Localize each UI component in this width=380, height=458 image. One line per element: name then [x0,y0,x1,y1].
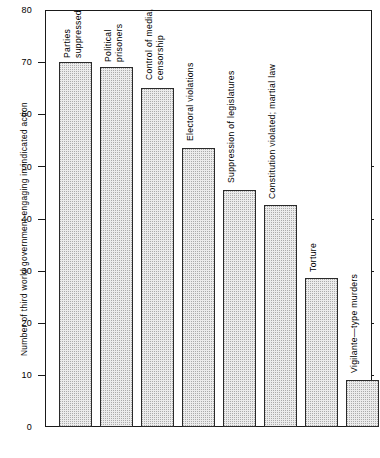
bar-parties-suppressed [59,62,92,427]
bar-label-line-1: Political [103,29,113,62]
bar-label-line-2: prisoners [114,24,125,63]
bar-label-suppression-of-legislatures: Suppression of legislatures [226,70,236,183]
y-tick-label-60: 60 [10,110,32,119]
y-tick-label-80: 80 [10,6,32,15]
y-tick-label-10: 10 [10,371,32,380]
y-tick-mark-20 [38,323,45,324]
y-tick-mark-30 [38,271,45,272]
y-tick-label-70: 70 [10,58,32,67]
y-tick-mark-70 [38,62,45,63]
bar-electoral-violations [182,148,215,427]
bar-label-torture: Torture [308,243,318,272]
bar-chart: Number of third world government engagin… [0,0,380,458]
bar-label-political-prisoners: Political prisoners [103,24,125,63]
y-tick-mark-10 [38,375,45,376]
bars-area [45,10,372,427]
bar-label-line-1: Control of media, [144,9,154,80]
y-tick-mark-50 [38,166,45,167]
bar-label-control-of-media-censorship: Control of media, censorship [144,9,166,80]
y-tick-label-40: 40 [10,215,32,224]
bar-label-line-1: Electoral violations [185,62,195,141]
bar-label-electoral-violations: Electoral violations [185,62,195,141]
bar-label-line-2: suppressed [73,10,84,58]
y-tick-label-50: 50 [10,163,32,172]
y-tick-label-30: 30 [10,267,32,276]
y-tick-mark-60 [38,114,45,115]
bar-torture [305,278,338,427]
bar-label-line-1: Suppression of legislatures [226,70,236,183]
bar-label-parties-suppressed: Parties suppressed [62,10,84,58]
bar-political-prisoners [100,67,133,427]
bar-label-line-2: censorship [155,9,166,80]
bar-vigilante-type-murders [346,380,379,427]
y-tick-mark-40 [38,219,45,220]
bar-control-of-media-censorship [141,88,174,427]
bar-label-line-1: Torture [308,243,318,272]
bar-label-line-1: Constitution violated; martial law [267,64,277,199]
bar-label-vigilante-type-murders: Vigilante—type murders [349,274,359,373]
bar-constitution-violated [264,205,297,427]
bar-label-line-1: Vigilante—type murders [349,274,359,373]
bar-label-constitution-violated: Constitution violated; martial law [267,64,277,199]
y-tick-label-0: 0 [10,423,32,432]
y-axis-title: Number of third world government engagin… [16,0,32,458]
bar-suppression-of-legislatures [223,190,256,427]
y-tick-label-20: 20 [10,319,32,328]
bar-label-line-1: Parties [62,29,72,58]
